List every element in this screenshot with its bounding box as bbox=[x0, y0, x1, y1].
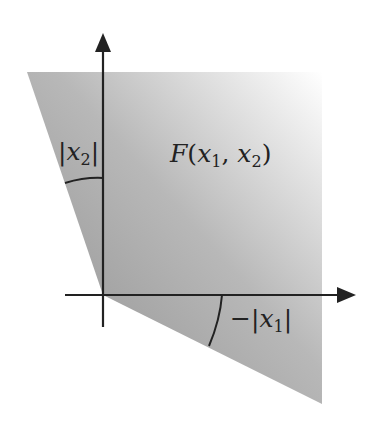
x-axis-arrowhead-icon bbox=[337, 287, 356, 303]
angle-bottom-label: −|x1| bbox=[230, 304, 292, 336]
cone-diagram: F(x1, x2) |x2| −|x1| bbox=[0, 0, 375, 436]
angle-top-label: |x2| bbox=[58, 137, 99, 169]
cone-region bbox=[27, 72, 322, 404]
y-axis-arrowhead-icon bbox=[95, 33, 111, 52]
